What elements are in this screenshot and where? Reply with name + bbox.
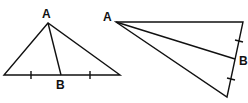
right-label-A: A	[103, 10, 112, 24]
left-triangle-outline	[4, 23, 120, 75]
right-tick-mark-2	[227, 78, 235, 80]
right-tick-mark-1	[235, 40, 243, 42]
right-triangle-outline	[116, 22, 243, 97]
right-triangle: A B	[103, 10, 248, 97]
left-label-A: A	[42, 7, 51, 21]
right-segment-AB	[116, 22, 235, 59]
diagram-canvas: A B A B	[0, 0, 248, 103]
left-label-B: B	[56, 78, 65, 92]
right-label-B: B	[239, 54, 248, 68]
